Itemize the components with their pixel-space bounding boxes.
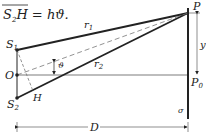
- label-sigma: σ: [178, 106, 184, 115]
- label-r1: r1: [84, 19, 93, 32]
- formula: S2H = hϑ.: [2, 5, 69, 24]
- ray-r2: [17, 13, 188, 98]
- formula-lhs: S: [3, 7, 12, 22]
- label-theta: ϑ: [58, 61, 64, 70]
- svg-text:S2H = hϑ.: S2H = hϑ.: [3, 7, 69, 24]
- double-slit-diagram: S2H = hϑ. S1 O S2 H ϑ r1 r2 P y P0 σ D: [0, 0, 206, 134]
- formula-rhs: hϑ.: [47, 7, 69, 22]
- label-d: D: [89, 121, 99, 134]
- label-p: P: [192, 0, 201, 13]
- label-y: y: [199, 39, 206, 50]
- label-h: H: [32, 92, 42, 103]
- point-o: [15, 73, 19, 77]
- dashed-perpendicular: [17, 50, 33, 91]
- label-o: O: [5, 69, 14, 82]
- label-s2: S2: [7, 98, 20, 112]
- label-s1: S1: [6, 38, 18, 52]
- label-r2: r2: [94, 58, 104, 71]
- label-p0: P0: [190, 76, 203, 90]
- point-s2: [15, 96, 19, 100]
